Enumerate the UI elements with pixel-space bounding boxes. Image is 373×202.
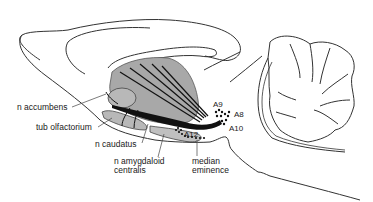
- n-accumbens-region: [108, 88, 136, 108]
- thalamus-outline: [204, 52, 240, 70]
- cortex-outline: [20, 19, 241, 60]
- brain-outline-drawing: [0, 0, 373, 202]
- label-tub-olfactorium: tub olfactorium: [36, 123, 92, 132]
- brain-diagram: n accumbens tub olfactorium n caudatus n…: [0, 0, 373, 202]
- label-n-accumbens: n accumbens: [17, 103, 68, 112]
- brainstem-inner-line: [262, 62, 345, 150]
- label-n-caudatus: n caudatus: [95, 140, 137, 149]
- cerebellum-folia: [276, 44, 350, 124]
- label-a10: A10: [229, 125, 243, 133]
- midbrain-outline: [230, 56, 262, 82]
- label-eminence: eminence: [192, 166, 229, 175]
- label-a9: A9: [213, 101, 223, 109]
- median-eminence-outline: [155, 137, 360, 200]
- label-centralis: centralis: [114, 166, 146, 175]
- label-a12: A12: [184, 131, 198, 139]
- label-a8: A8: [234, 111, 244, 119]
- brainstem-outline: [258, 58, 345, 152]
